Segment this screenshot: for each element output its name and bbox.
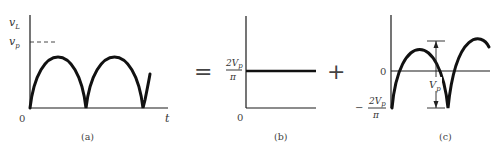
panel-c-zero-label: 0 — [380, 66, 386, 77]
panel-a-peak-label: vp — [9, 35, 20, 50]
panel-b-origin-label: 0 — [237, 112, 243, 123]
panel-c-caption: (c) — [439, 131, 452, 142]
equals-operator: = — [194, 59, 212, 84]
panel-a-rectified-wave — [30, 57, 150, 108]
rectifier-decomposition-diagram: vL vp 0 t (a) = 2Vp π 0 (b) + — [0, 0, 504, 149]
panel-a-x-label: t — [165, 112, 170, 125]
panel-b-level-label: 2Vp π — [225, 58, 243, 82]
svg-text:π: π — [229, 72, 237, 82]
panel-c-min-label: − 2Vp π — [355, 96, 386, 120]
panel-b: 2Vp π 0 (b) — [225, 16, 316, 142]
panel-c-ripple-wave — [392, 39, 489, 108]
svg-text:π: π — [372, 110, 380, 120]
svg-text:−: − — [355, 102, 363, 113]
panel-c: Vp 0 − 2Vp π (c) — [355, 15, 490, 142]
panel-a: vL vp 0 t (a) — [9, 15, 170, 142]
plus-operator: + — [327, 59, 345, 84]
panel-a-origin-label: 0 — [19, 113, 25, 124]
panel-a-y-label: vL — [9, 16, 20, 31]
svg-text:2Vp: 2Vp — [225, 58, 243, 70]
svg-text:2Vp: 2Vp — [368, 96, 386, 108]
panel-b-caption: (b) — [274, 131, 288, 142]
panel-a-caption: (a) — [81, 131, 94, 142]
